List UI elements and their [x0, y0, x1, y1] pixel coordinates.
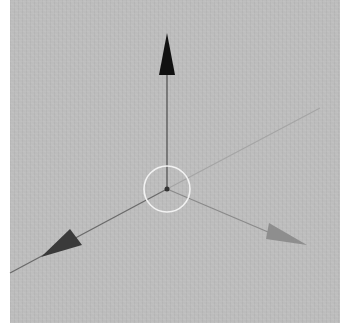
- up-axis-arrow-icon[interactable]: [159, 33, 175, 75]
- lower-right-axis-cone-icon[interactable]: [266, 223, 307, 245]
- upper-right-axis-line: [167, 108, 320, 189]
- lower-left-axis-cone-icon[interactable]: [41, 229, 82, 257]
- lower-left-axis-line: [10, 189, 167, 273]
- axis-gizmo[interactable]: [0, 0, 343, 330]
- lower-right-axis-line: [167, 189, 268, 232]
- gizmo-center-dot: [165, 187, 170, 192]
